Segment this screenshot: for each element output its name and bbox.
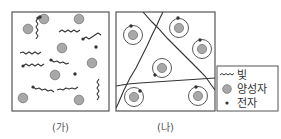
electron-icon: [198, 38, 201, 41]
caption-na: (나): [157, 119, 174, 134]
proton-icon: [57, 43, 67, 53]
proton-icon: [23, 24, 33, 34]
electron-icon: [176, 16, 179, 19]
proton-icon: [174, 23, 183, 32]
electron-icon: [138, 89, 141, 92]
diagram-canvas: 빛양성자전자: [0, 0, 281, 139]
panel-na: [116, 12, 215, 111]
electron-icon: [153, 73, 156, 76]
proton-circle-icon: [223, 85, 232, 94]
proton-icon: [193, 91, 202, 100]
legend: 빛양성자전자: [217, 66, 278, 111]
legend-label-2: 전자: [237, 97, 257, 110]
proton-icon: [197, 44, 206, 53]
proton-icon: [87, 58, 97, 68]
electron-icon: [73, 72, 76, 75]
legend-label-0: 빛: [237, 69, 247, 82]
caption-ga: (가): [52, 119, 69, 134]
proton-icon: [74, 95, 84, 105]
photon-end-dot: [31, 85, 34, 88]
proton-icon: [129, 92, 138, 101]
legend-label-1: 양성자: [237, 83, 267, 96]
electron-icon: [194, 85, 197, 88]
photon-end-dot: [49, 58, 52, 61]
electron-icon: [129, 24, 132, 27]
panel-ga: [12, 12, 109, 111]
electron-icon: [94, 45, 97, 48]
proton-icon: [157, 63, 166, 72]
proton-icon: [128, 30, 137, 39]
photon-end-dot: [21, 64, 24, 67]
proton-icon: [74, 14, 84, 24]
electron-dot-icon: [225, 101, 228, 104]
proton-icon: [50, 70, 60, 80]
proton-icon: [18, 93, 28, 103]
photon-end-dot: [81, 37, 84, 40]
electron-icon: [38, 15, 41, 18]
